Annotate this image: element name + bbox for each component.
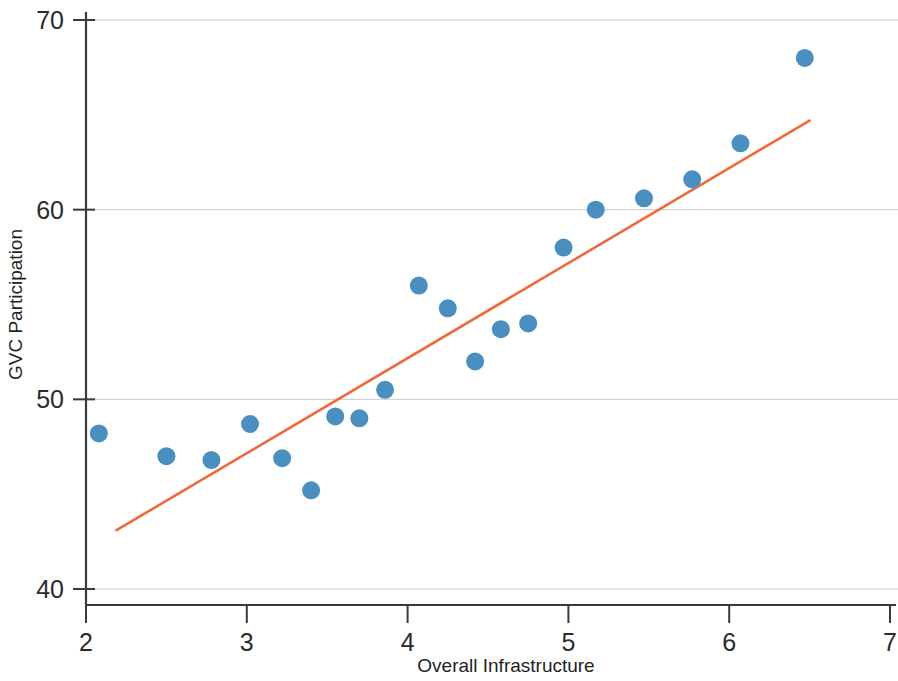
scatter-chart: 40506070 234567 Overall InfrastructureGV… [0,0,898,681]
x-tick-label-3: 3 [240,628,254,656]
data-point [466,352,484,370]
chart-canvas: 40506070 234567 Overall InfrastructureGV… [0,0,898,681]
chart-background [0,0,898,681]
data-point [683,170,701,188]
data-point [273,449,291,467]
data-point [635,189,653,207]
data-point [410,277,428,295]
data-point [157,447,175,465]
data-point [555,239,573,257]
x-tick-label-5: 5 [561,628,575,656]
data-point [350,409,368,427]
x-axis-title: Overall Infrastructure [417,655,594,676]
data-point [241,415,259,433]
x-tick-label-6: 6 [722,628,736,656]
y-tick-label-50: 50 [36,385,64,413]
y-tick-label-70: 70 [36,6,64,34]
y-tick-label-40: 40 [36,575,64,603]
data-point [796,49,814,67]
x-tick-label-2: 2 [79,628,93,656]
data-point [302,481,320,499]
x-tick-label-4: 4 [401,628,415,656]
data-point [587,201,605,219]
x-tick-label-7: 7 [883,628,897,656]
data-point [492,320,510,338]
data-point [731,134,749,152]
data-point [326,407,344,425]
y-tick-label-60: 60 [36,196,64,224]
data-point [90,424,108,442]
data-point [376,381,394,399]
y-axis-title: GVC Participation [5,229,26,380]
data-point [519,314,537,332]
data-point [202,451,220,469]
data-point [439,299,457,317]
